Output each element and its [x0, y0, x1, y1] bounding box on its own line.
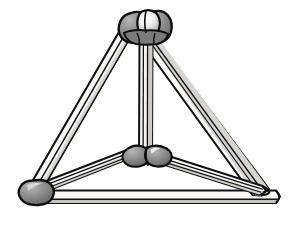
- matchstick-figure: Six matchsticks arranged as a tetrahedro…: [0, 0, 294, 230]
- vertex-bottom-left-head: [19, 180, 54, 205]
- matchstick-bottom-edge: [40, 191, 280, 204]
- vertex-apex-heads: [119, 10, 172, 45]
- vertex-center-heads: [122, 146, 171, 167]
- matchstick-tetrahedron-drawing: [0, 0, 294, 230]
- matchstick-vertical-spoke: [139, 36, 153, 156]
